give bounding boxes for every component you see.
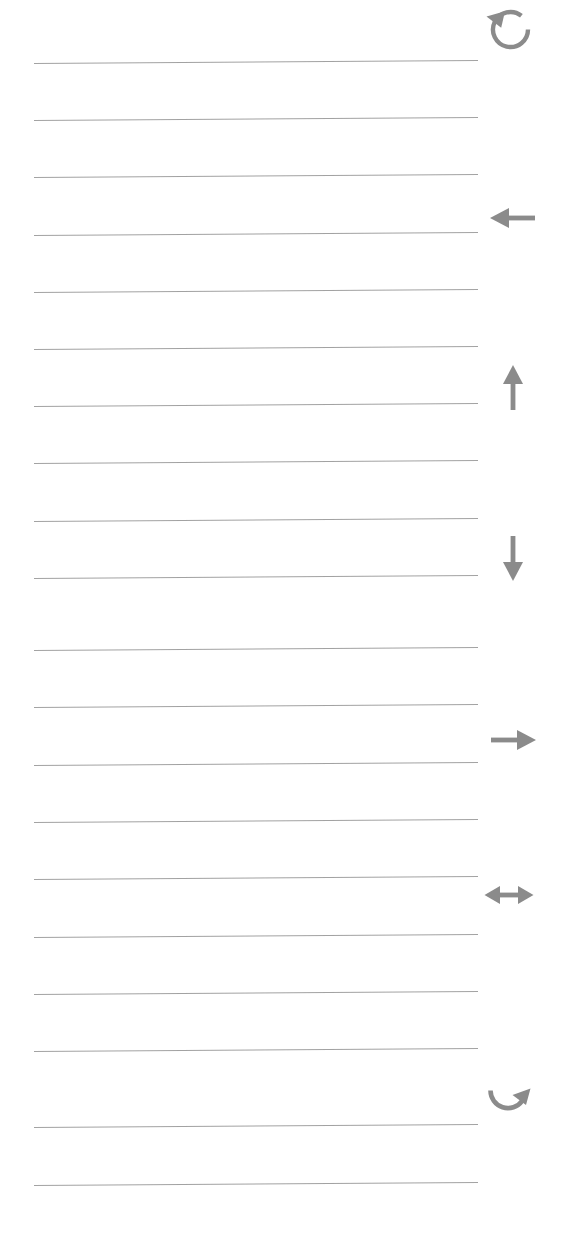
arrow-down-icon[interactable]	[487, 532, 539, 584]
notepad-page	[0, 0, 572, 1236]
undo-icon[interactable]	[483, 2, 535, 54]
arrow-left-icon[interactable]	[487, 192, 539, 244]
arrow-up-icon[interactable]	[487, 362, 539, 414]
redo-icon[interactable]	[483, 1073, 535, 1125]
arrow-left-right-icon[interactable]	[483, 869, 535, 921]
arrow-right-icon[interactable]	[487, 714, 539, 766]
margin-icon-layer	[0, 0, 572, 1236]
